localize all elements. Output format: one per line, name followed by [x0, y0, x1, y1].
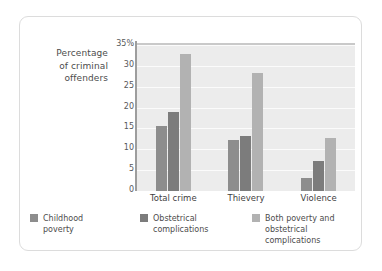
y-axis-title-line: offenders [26, 72, 108, 85]
bar-group [282, 45, 355, 191]
y-axis-title-line: of criminal [26, 60, 108, 73]
legend-label: Both poverty and obstetrical complicatio… [265, 213, 360, 246]
y-axis-tick-label: 5 [110, 164, 134, 173]
bar [252, 73, 263, 191]
chart-area: Percentageof criminaloffenders 051015202… [20, 17, 363, 202]
x-axis-category-labels: Total crimeThieveryViolence [137, 193, 355, 209]
y-axis-title: Percentageof criminaloffenders [26, 47, 108, 85]
legend-swatch-icon [252, 214, 260, 222]
bar [168, 112, 179, 191]
plot-region [137, 43, 355, 191]
chart-card: Percentageof criminaloffenders 051015202… [19, 16, 362, 251]
x-axis-category-label: Violence [301, 193, 337, 203]
bar-group [210, 45, 283, 191]
legend-label: Obstetrical complications [153, 213, 208, 235]
y-axis-tick-label: 0 [110, 185, 134, 194]
x-axis-category-label: Total crime [150, 193, 197, 203]
legend-item[interactable]: Childhood poverty [30, 213, 83, 235]
bar [156, 126, 167, 191]
legend-item[interactable]: Obstetrical complications [140, 213, 208, 235]
bar [180, 54, 191, 191]
y-axis-tick-label: 35% [110, 39, 134, 48]
y-axis-tick-labels: 05101520253035% [110, 43, 134, 189]
legend-label: Childhood poverty [43, 213, 83, 235]
y-axis-tick-label: 20 [110, 101, 134, 110]
legend-swatch-icon [30, 214, 38, 222]
bar [313, 161, 324, 191]
y-axis-tick-label: 30 [110, 59, 134, 68]
y-axis-tick-label: 25 [110, 80, 134, 89]
legend-swatch-icon [140, 214, 148, 222]
bar [228, 140, 239, 191]
bar [301, 178, 312, 191]
y-axis-title-line: Percentage [26, 47, 108, 60]
y-axis-tick-label: 10 [110, 143, 134, 152]
chart-legend: Childhood povertyObstetrical complicatio… [30, 213, 360, 247]
x-axis-category-label: Thievery [228, 193, 265, 203]
bar [325, 138, 336, 191]
bar-group [137, 45, 210, 191]
legend-item[interactable]: Both poverty and obstetrical complicatio… [252, 213, 360, 246]
y-axis-tick-label: 15 [110, 122, 134, 131]
bar [240, 136, 251, 191]
